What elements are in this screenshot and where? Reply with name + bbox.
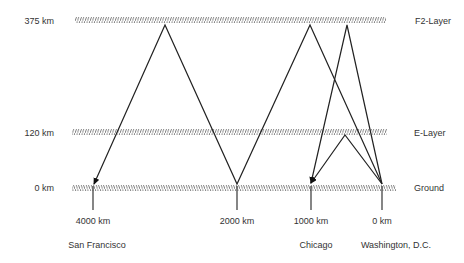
layer-label-ground: Ground	[414, 183, 444, 194]
distance-label-1000km: 1000 km	[294, 216, 329, 227]
layer-label-f2: F2-Layer	[415, 16, 451, 27]
layer-band-ground	[72, 185, 396, 191]
city-label-chicago: Chicago	[299, 240, 332, 251]
propagation-paths	[94, 25, 382, 184]
city-label-washington-dc: Washington, D.C.	[361, 240, 431, 251]
skywave-diagram: 375 km 120 km 0 km F2-Layer E-Layer Grou…	[0, 0, 464, 263]
altitude-label-0km: 0 km	[0, 183, 54, 194]
city-label-san-francisco: San Francisco	[68, 240, 126, 251]
altitude-label-375km: 375 km	[0, 16, 54, 27]
layer-label-e: E-Layer	[414, 128, 446, 139]
layer-bands	[72, 17, 396, 191]
distance-label-4000km: 4000 km	[76, 216, 111, 227]
distance-label-2000km: 2000 km	[220, 216, 255, 227]
layer-band-f2-layer	[75, 17, 386, 23]
path-f2-two-hop-to-san-francisco	[94, 25, 382, 184]
distance-label-0km: 0 km	[372, 216, 392, 227]
altitude-label-120km: 120 km	[0, 128, 54, 139]
layer-band-e-layer	[72, 129, 387, 135]
